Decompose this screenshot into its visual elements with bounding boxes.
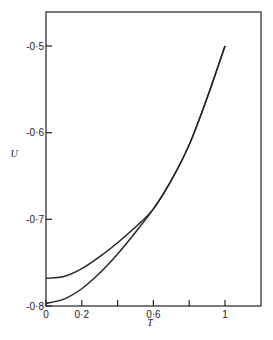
upper-curve-line xyxy=(46,46,225,278)
y-tick-label: -0·7 xyxy=(26,214,44,225)
chart: 00·20·61 -0·5-0·6-0·7-0·8 T U xyxy=(0,0,273,340)
data-series xyxy=(46,46,225,303)
lower-curve-line xyxy=(46,46,225,303)
x-tick-label: 1 xyxy=(222,309,228,320)
x-tick-label: 0 xyxy=(43,309,49,320)
y-tick-label: -0·5 xyxy=(26,41,44,52)
y-tick-label: -0·6 xyxy=(26,127,44,138)
y-axis-ticks: -0·5-0·6-0·7-0·8 xyxy=(26,41,52,312)
y-axis-label: U xyxy=(10,148,18,159)
plot-frame xyxy=(46,12,261,306)
y-tick-label: -0·8 xyxy=(26,301,44,312)
x-axis-ticks: 00·20·61 xyxy=(43,300,228,320)
x-tick-label: 0·2 xyxy=(75,309,90,320)
